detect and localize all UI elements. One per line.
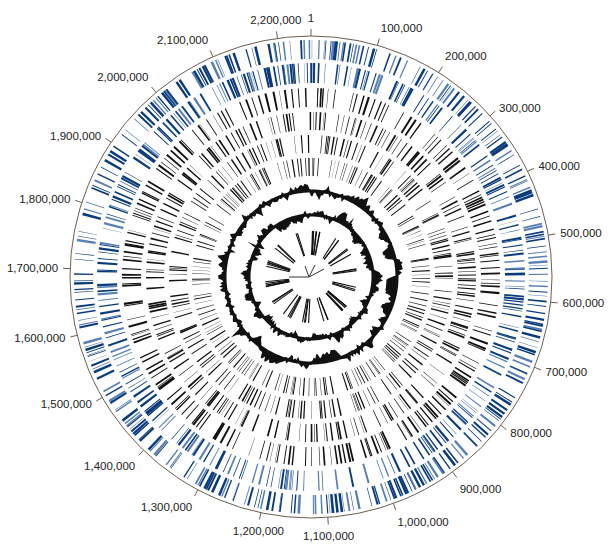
gene-feature [391, 453, 401, 472]
gene-feature [422, 214, 439, 223]
gene-feature [394, 398, 405, 413]
gene-feature [428, 139, 442, 153]
scale-label: 1,900,000 [50, 130, 101, 142]
gene-feature [146, 360, 163, 371]
scale-label: 1 [308, 12, 314, 24]
gene-feature [341, 115, 345, 133]
gene-feature [435, 278, 453, 279]
gene-feature [471, 155, 488, 167]
gene-feature [122, 268, 141, 270]
scale-label: 1,700,000 [7, 262, 58, 274]
gene-feature [434, 290, 452, 293]
gene-feature [318, 40, 320, 59]
gene-feature [252, 414, 260, 431]
gene-feature [98, 258, 118, 261]
gene-feature [225, 108, 235, 125]
gene-feature [422, 134, 435, 149]
gene-feature [158, 377, 174, 390]
gene-feature [174, 308, 191, 313]
gene-feature [334, 445, 338, 464]
gene-feature [232, 483, 239, 501]
gene-feature [103, 228, 123, 233]
scale-tick [393, 503, 395, 510]
gene-feature [529, 285, 548, 287]
gene-feature [267, 44, 273, 63]
gene-feature [267, 419, 273, 437]
gene-feature [142, 353, 160, 363]
gene-feature [77, 239, 96, 244]
gene-feature [273, 66, 278, 86]
gene-feature [189, 101, 201, 118]
gene-feature [442, 450, 454, 466]
gene-feature [458, 274, 476, 275]
gene-feature [474, 381, 492, 393]
gene-feature [173, 358, 189, 369]
gene-feature [249, 123, 257, 140]
gene-feature [192, 279, 210, 280]
gene-feature [308, 135, 310, 153]
gene-feature [457, 180, 474, 190]
gene-feature [292, 446, 295, 465]
gene-feature [208, 392, 220, 407]
gene-feature [122, 284, 141, 287]
gene-feature [303, 471, 305, 491]
gene-feature [505, 280, 525, 281]
gene-feature [296, 471, 298, 491]
scale-label: 600,000 [563, 297, 605, 309]
gene-feature [412, 278, 430, 279]
scale-label: 800,000 [510, 427, 552, 439]
gene-feature [275, 397, 281, 415]
gene-feature [367, 488, 373, 507]
rna-gene-mark [297, 233, 304, 256]
gene-feature [160, 209, 177, 218]
rna-gene-mark [296, 234, 304, 257]
gene-feature [127, 316, 146, 321]
gene-feature [455, 305, 473, 309]
gene-feature [167, 349, 183, 358]
gene-feature [407, 152, 420, 167]
gene-feature [196, 304, 214, 310]
gene-feature [154, 409, 169, 423]
gene-feature [337, 398, 342, 416]
gene-feature [458, 280, 476, 282]
gene-feature [405, 234, 422, 241]
gene-feature [462, 398, 478, 411]
gene-feature [99, 303, 119, 307]
gene-feature [108, 338, 127, 345]
rna-gene-mark [272, 289, 292, 302]
gene-feature [400, 324, 416, 333]
gene-feature [320, 378, 322, 396]
gene-feature [365, 362, 375, 378]
gene-feature [208, 147, 221, 162]
scale-tick [210, 50, 213, 56]
gene-feature [169, 269, 187, 271]
gene-feature [271, 141, 276, 158]
rna-gene-mark [327, 292, 345, 308]
gene-feature [451, 129, 467, 144]
gc-skew-plot [240, 210, 383, 343]
scale-tick [548, 234, 555, 235]
gene-feature [198, 309, 215, 316]
gene-feature [528, 260, 547, 264]
feature-ring-3 [122, 88, 500, 466]
gene-feature [381, 105, 390, 123]
gene-feature [291, 159, 295, 177]
gene-feature [241, 410, 250, 427]
gene-feature [441, 385, 457, 398]
gene-feature [433, 296, 451, 300]
gene-feature [473, 220, 492, 227]
gene-feature [83, 337, 102, 345]
gene-feature [334, 493, 339, 512]
gene-feature [431, 182, 446, 193]
gene-feature [346, 492, 351, 511]
gene-feature [192, 266, 210, 268]
gene-feature [325, 423, 328, 441]
scale-tick [96, 398, 102, 402]
gene-feature [206, 119, 217, 135]
gene-feature [183, 331, 200, 340]
gene-feature [147, 261, 165, 264]
gene-feature [405, 389, 417, 403]
gene-feature [397, 215, 413, 225]
gene-feature [192, 280, 210, 281]
gene-feature [441, 200, 458, 210]
